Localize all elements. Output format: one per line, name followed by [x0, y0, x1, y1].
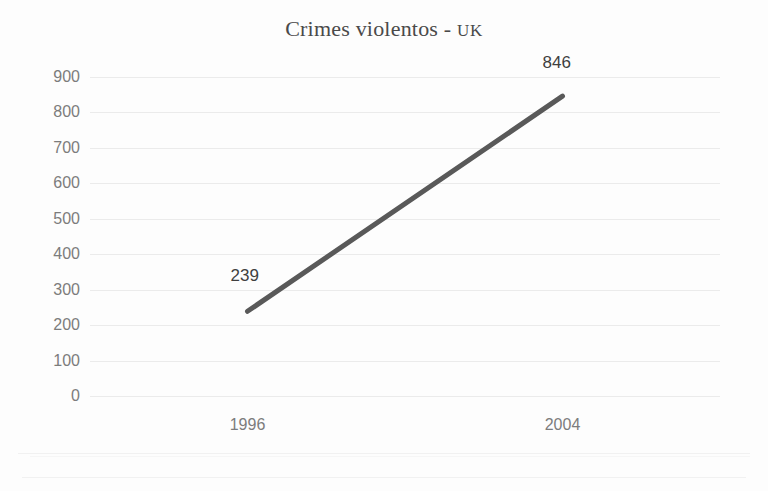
gridline [90, 361, 720, 362]
scan-artifact-rule-3 [22, 477, 746, 478]
y-tick-label: 400 [0, 246, 85, 262]
y-axis: 9008007006005004003002001000 [0, 77, 85, 396]
y-tick-label: 300 [0, 282, 85, 298]
chart-page: Crimes violentos - UK 900800700600500400… [0, 0, 768, 491]
gridline [90, 219, 720, 220]
scan-artifact-rule-2 [30, 456, 750, 457]
y-tick-label: 800 [0, 104, 85, 120]
data-point-label: 846 [543, 54, 571, 72]
gridline [90, 183, 720, 184]
gridline [90, 325, 720, 326]
gridline [90, 112, 720, 113]
y-tick-label: 0 [0, 388, 85, 404]
gridline [90, 77, 720, 78]
y-tick-label: 600 [0, 175, 85, 191]
x-tick-label: 1996 [188, 415, 308, 435]
y-tick-label: 900 [0, 69, 85, 85]
y-tick-label: 700 [0, 140, 85, 156]
gridline [90, 396, 720, 397]
scan-artifact-rule-1 [18, 453, 750, 454]
chart-title: Crimes violentos - UK [0, 16, 768, 42]
x-axis: 19962004 [90, 415, 720, 437]
gridline [90, 290, 720, 291]
gridline [90, 254, 720, 255]
chart-title-region: UK [457, 21, 483, 40]
y-tick-label: 200 [0, 317, 85, 333]
chart-title-main: Crimes violentos - [285, 16, 457, 41]
x-tick-label: 2004 [503, 415, 623, 435]
gridline [90, 148, 720, 149]
y-tick-label: 500 [0, 211, 85, 227]
y-tick-label: 100 [0, 353, 85, 369]
data-point-label: 239 [231, 267, 259, 285]
plot-area [90, 77, 720, 396]
